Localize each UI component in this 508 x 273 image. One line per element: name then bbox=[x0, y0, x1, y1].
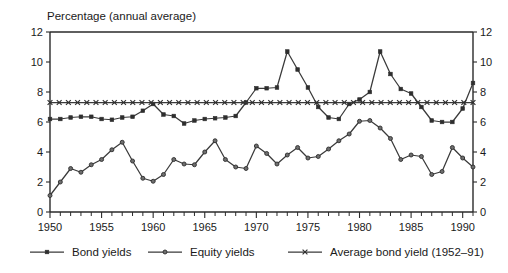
legend-item-average-bond-yield-1952-91[interactable]: Average bond yield (1952–91) bbox=[288, 246, 484, 258]
data-point-marker-circle bbox=[182, 162, 186, 166]
series-layer bbox=[48, 50, 476, 198]
series-polyline bbox=[50, 121, 473, 196]
data-point-marker-circle bbox=[110, 148, 114, 152]
data-point-marker-circle bbox=[100, 158, 104, 162]
right-axis-tick-label: 8 bbox=[480, 86, 486, 98]
right-axis-tick-label: 6 bbox=[480, 116, 486, 128]
data-point-marker-circle bbox=[440, 170, 444, 174]
data-point-marker-square bbox=[471, 81, 475, 85]
data-point-marker-circle bbox=[213, 139, 217, 143]
data-point-marker-square bbox=[89, 115, 93, 119]
data-point-marker-square bbox=[141, 109, 145, 113]
data-point-marker-circle bbox=[378, 126, 382, 130]
data-point-marker-circle bbox=[172, 158, 176, 162]
chart-axis-title: Percentage (annual average) bbox=[47, 10, 196, 22]
data-point-marker-circle bbox=[337, 139, 341, 143]
legend-item-label: Equity yields bbox=[190, 246, 255, 258]
data-point-marker-circle bbox=[285, 153, 289, 157]
legend-item-label: Bond yields bbox=[72, 246, 132, 258]
right-axis-tick-label: 4 bbox=[480, 146, 486, 158]
chart-legend: Bond yieldsEquity yieldsAverage bond yie… bbox=[30, 246, 484, 258]
data-point-marker-circle bbox=[419, 155, 423, 159]
data-point-marker-square bbox=[306, 86, 310, 90]
data-point-marker-square bbox=[131, 115, 135, 119]
data-point-marker-square bbox=[265, 86, 269, 90]
legend-item-label: Average bond yield (1952–91) bbox=[330, 246, 484, 258]
data-point-marker-circle bbox=[79, 170, 83, 174]
legend-item-equity-yields[interactable]: Equity yields bbox=[148, 246, 255, 258]
data-point-marker-square bbox=[420, 105, 424, 109]
right-axis-tick-label: 10 bbox=[480, 56, 492, 68]
left-axis-tick-label: 12 bbox=[31, 26, 43, 38]
legend-item-bond-yields[interactable]: Bond yields bbox=[30, 246, 132, 258]
data-point-marker-square bbox=[110, 118, 114, 122]
data-point-marker-square bbox=[430, 119, 434, 123]
data-point-marker-square bbox=[48, 117, 52, 121]
data-point-marker-square bbox=[399, 87, 403, 91]
data-point-marker-circle bbox=[120, 140, 124, 144]
data-point-marker-circle bbox=[141, 176, 145, 180]
data-point-marker-circle bbox=[69, 167, 73, 171]
data-point-marker-circle bbox=[254, 144, 258, 148]
data-point-marker-circle bbox=[368, 119, 372, 123]
data-point-marker-circle bbox=[327, 147, 331, 151]
data-point-marker-square bbox=[255, 86, 259, 90]
left-axis-tick-label: 6 bbox=[37, 116, 43, 128]
right-y-axis: 024681012 bbox=[473, 26, 492, 218]
left-axis-tick-label: 0 bbox=[37, 206, 43, 218]
x-axis-tick-label: 1950 bbox=[38, 221, 62, 233]
data-point-marker-circle bbox=[89, 163, 93, 167]
data-point-marker-square bbox=[316, 105, 320, 109]
data-point-marker-circle bbox=[223, 158, 227, 162]
data-point-marker-circle bbox=[192, 163, 196, 167]
data-point-marker-square bbox=[368, 90, 372, 94]
data-point-marker-square bbox=[45, 250, 49, 254]
data-point-marker-square bbox=[409, 92, 413, 96]
data-point-marker-circle bbox=[450, 146, 454, 150]
series-average-bond-yield-1952-91 bbox=[48, 100, 476, 105]
data-point-marker-circle bbox=[48, 194, 52, 198]
data-point-marker-circle bbox=[234, 165, 238, 169]
data-point-marker-square bbox=[120, 116, 124, 120]
data-point-marker-square bbox=[193, 119, 197, 123]
data-point-marker-square bbox=[224, 116, 228, 120]
series-bond-yields bbox=[48, 50, 475, 126]
line-chart-figure: Percentage (annual average) 024681012 02… bbox=[0, 0, 508, 273]
data-point-marker-square bbox=[296, 68, 300, 72]
data-point-marker-circle bbox=[399, 158, 403, 162]
data-point-marker-circle bbox=[58, 180, 62, 184]
data-point-marker-square bbox=[172, 114, 176, 118]
series-equity-yields bbox=[48, 119, 475, 198]
right-axis-tick-label: 0 bbox=[480, 206, 486, 218]
x-axis-tick-label: 1975 bbox=[296, 221, 320, 233]
data-point-marker-square bbox=[378, 50, 382, 54]
data-point-marker-circle bbox=[409, 153, 413, 157]
x-axis-tick-label: 1990 bbox=[450, 221, 474, 233]
right-axis-tick-label: 2 bbox=[480, 176, 486, 188]
left-axis-tick-label: 4 bbox=[37, 146, 43, 158]
data-point-marker-circle bbox=[306, 156, 310, 160]
data-point-marker-circle bbox=[471, 165, 475, 169]
data-point-marker-circle bbox=[296, 146, 300, 150]
data-point-marker-square bbox=[461, 107, 465, 111]
data-point-marker-square bbox=[100, 117, 104, 121]
x-axis-tick-label: 1970 bbox=[244, 221, 268, 233]
data-point-marker-square bbox=[203, 117, 207, 121]
data-point-marker-square bbox=[162, 113, 166, 117]
data-point-marker-square bbox=[69, 116, 73, 120]
data-point-marker-square bbox=[451, 120, 455, 124]
data-point-marker-circle bbox=[151, 179, 155, 183]
left-axis-tick-label: 10 bbox=[31, 56, 43, 68]
x-axis-tick-label: 1980 bbox=[347, 221, 371, 233]
left-axis-tick-label: 8 bbox=[37, 86, 43, 98]
data-point-marker-circle bbox=[461, 156, 465, 160]
data-point-marker-square bbox=[213, 116, 217, 120]
data-point-marker-square bbox=[327, 116, 331, 120]
data-point-marker-circle bbox=[163, 250, 167, 254]
chart-container: Percentage (annual average) 024681012 02… bbox=[0, 0, 508, 273]
right-axis-tick-label: 12 bbox=[480, 26, 492, 38]
data-point-marker-square bbox=[234, 114, 238, 118]
data-point-marker-circle bbox=[265, 152, 269, 156]
data-point-marker-circle bbox=[244, 167, 248, 171]
data-point-marker-square bbox=[79, 115, 83, 119]
